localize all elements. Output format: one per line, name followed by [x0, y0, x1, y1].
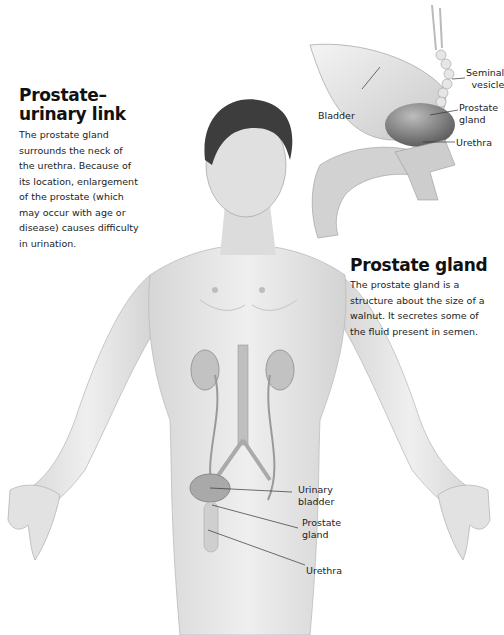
body-line: The prostate gland — [19, 127, 179, 143]
left-body-text: The prostate gland surrounds the neck of… — [19, 127, 179, 251]
label-line: Urinary — [298, 484, 334, 496]
body-line: surrounds the neck of — [19, 143, 179, 159]
label-urethra-body: Urethra — [306, 565, 342, 577]
label-prostate-gland-body: Prostate gland — [302, 517, 341, 541]
label-line: Prostate — [302, 517, 341, 529]
heading-line: urinary link — [19, 105, 126, 124]
body-line: The prostate gland is a — [350, 277, 498, 293]
body-line: of the prostate (which — [19, 189, 179, 205]
right-body-text: The prostate gland is a structure about … — [350, 277, 498, 339]
label-line: Seminal — [466, 67, 504, 79]
left-heading: Prostate– urinary link — [19, 86, 126, 124]
label-urethra-inset: Urethra — [456, 137, 492, 149]
label-seminal-vesicle: Seminal vesicle — [466, 67, 504, 91]
label-line: bladder — [298, 496, 334, 508]
body-line: may occur with age or — [19, 205, 179, 221]
body-line: the fluid present in semen. — [350, 324, 498, 340]
label-line: Prostate — [459, 102, 498, 114]
label-line: gland — [302, 529, 341, 541]
label-prostate-gland-inset: Prostate gland — [459, 102, 498, 126]
label-line: vesicle — [466, 79, 504, 91]
body-line: disease) causes difficulty — [19, 220, 179, 236]
body-line: walnut. It secretes some of — [350, 308, 498, 324]
body-line: structure about the size of a — [350, 293, 498, 309]
label-urinary-bladder: Urinary bladder — [298, 484, 334, 508]
body-line: the urethra. Because of — [19, 158, 179, 174]
body-line: its location, enlargement — [19, 174, 179, 190]
right-heading: Prostate gland — [350, 256, 487, 275]
heading-line: Prostate– — [19, 86, 126, 105]
label-line: gland — [459, 114, 498, 126]
label-bladder: Bladder — [318, 110, 355, 122]
body-line: in urination. — [19, 236, 179, 252]
